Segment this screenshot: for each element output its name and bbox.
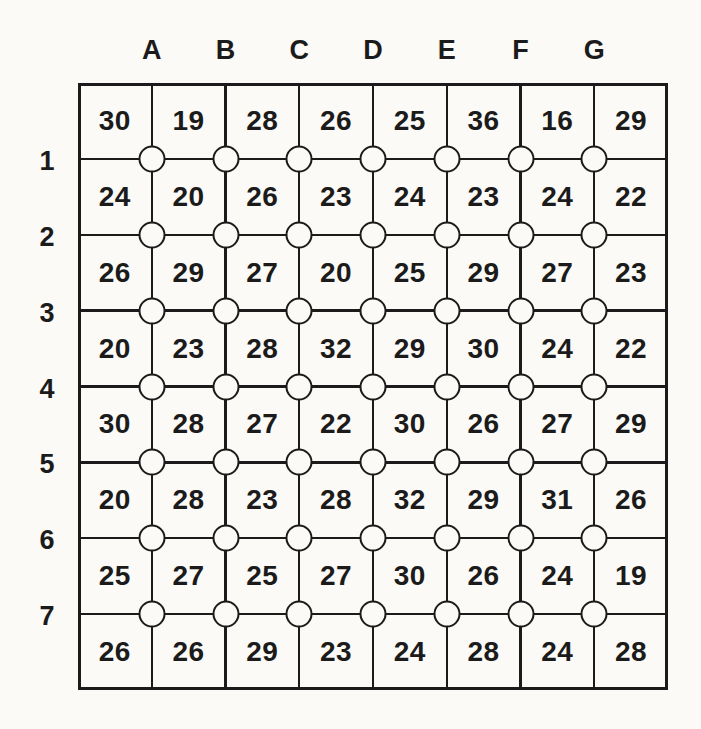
cell-value-r7-c4: 27 — [299, 538, 373, 614]
cell-value-r1-c1: 30 — [78, 83, 152, 159]
grid-node-circle-E1 — [433, 145, 460, 172]
cell-value-r1-c4: 26 — [299, 83, 373, 159]
grid-node-circle-G4 — [581, 373, 608, 400]
cell-value-r3-c6: 29 — [447, 235, 521, 311]
cell-value-r3-c5: 25 — [373, 235, 447, 311]
cell-value-r7-c6: 26 — [447, 538, 521, 614]
cell-value-r8-c8: 28 — [594, 614, 668, 690]
grid-node-circle-A2 — [138, 221, 165, 248]
grid-node-circle-D5 — [360, 449, 387, 476]
row-label-4: 4 — [30, 373, 64, 404]
cell-value-r2-c8: 22 — [594, 159, 668, 235]
cell-value-r7-c2: 27 — [152, 538, 226, 614]
cell-value-r6-c3: 23 — [226, 462, 300, 538]
cell-value-r8-c6: 28 — [447, 614, 521, 690]
column-label-C: C — [290, 35, 310, 65]
cell-value-r1-c7: 16 — [521, 83, 595, 159]
cell-value-r4-c7: 24 — [521, 311, 595, 387]
grid-node-circle-D6 — [360, 525, 387, 552]
cell-value-r4-c3: 28 — [226, 311, 300, 387]
cell-value-r7-c8: 19 — [594, 538, 668, 614]
cell-value-r2-c6: 23 — [447, 159, 521, 235]
column-label-F: F — [512, 35, 529, 65]
cell-value-r5-c8: 29 — [594, 387, 668, 463]
grid-node-circle-A3 — [138, 297, 165, 324]
scanned-grid-figure: ABCDEFG 1234567 301928262536162924202623… — [0, 0, 701, 729]
cell-value-r2-c2: 20 — [152, 159, 226, 235]
cell-value-r1-c8: 29 — [594, 83, 668, 159]
grid-node-circle-B5 — [212, 449, 239, 476]
cell-value-r7-c7: 24 — [521, 538, 595, 614]
cell-value-r5-c6: 26 — [447, 387, 521, 463]
grid-node-circle-F1 — [507, 145, 534, 172]
grid-node-circle-C7 — [286, 601, 313, 628]
cell-value-r5-c2: 28 — [152, 387, 226, 463]
grid-node-circle-A1 — [138, 145, 165, 172]
cell-value-r3-c3: 27 — [226, 235, 300, 311]
grid-node-circle-B3 — [212, 297, 239, 324]
grid-node-circle-F2 — [507, 221, 534, 248]
cell-value-r3-c2: 29 — [152, 235, 226, 311]
cell-value-r6-c1: 20 — [78, 462, 152, 538]
cell-value-r3-c8: 23 — [594, 235, 668, 311]
cell-value-r1-c5: 25 — [373, 83, 447, 159]
cell-value-r2-c3: 26 — [226, 159, 300, 235]
grid-node-circle-B6 — [212, 525, 239, 552]
cell-value-r1-c3: 28 — [226, 83, 300, 159]
row-label-1: 1 — [30, 145, 64, 176]
grid-node-circle-C5 — [286, 449, 313, 476]
grid-node-circle-A5 — [138, 449, 165, 476]
cell-value-r1-c6: 36 — [447, 83, 521, 159]
grid-node-circle-E4 — [433, 373, 460, 400]
cell-value-r2-c5: 24 — [373, 159, 447, 235]
cell-value-r7-c1: 25 — [78, 538, 152, 614]
grid-node-circle-F4 — [507, 373, 534, 400]
row-label-5: 5 — [30, 449, 64, 480]
grid-node-circle-B2 — [212, 221, 239, 248]
cell-value-r3-c1: 26 — [78, 235, 152, 311]
column-label-B: B — [216, 35, 236, 65]
row-label-2: 2 — [30, 221, 64, 252]
cell-value-r3-c4: 20 — [299, 235, 373, 311]
cell-value-r6-c5: 32 — [373, 462, 447, 538]
cell-value-r7-c3: 25 — [226, 538, 300, 614]
grid-node-circle-D2 — [360, 221, 387, 248]
cell-value-r3-c7: 27 — [521, 235, 595, 311]
row-label-3: 3 — [30, 297, 64, 328]
cell-value-r2-c1: 24 — [78, 159, 152, 235]
grid-node-circle-G1 — [581, 145, 608, 172]
grid-node-circle-D3 — [360, 297, 387, 324]
cell-value-r5-c7: 27 — [521, 387, 595, 463]
grid-node-circle-F3 — [507, 297, 534, 324]
grid-node-circle-A7 — [138, 601, 165, 628]
cell-value-r5-c4: 22 — [299, 387, 373, 463]
grid-node-circle-B4 — [212, 373, 239, 400]
cell-value-r4-c2: 23 — [152, 311, 226, 387]
cell-value-r6-c7: 31 — [521, 462, 595, 538]
cell-value-r6-c8: 26 — [594, 462, 668, 538]
grid-node-circle-B7 — [212, 601, 239, 628]
cell-value-r5-c3: 27 — [226, 387, 300, 463]
cell-value-r5-c5: 30 — [373, 387, 447, 463]
cell-value-r8-c2: 26 — [152, 614, 226, 690]
cell-value-r4-c5: 29 — [373, 311, 447, 387]
grid-node-circle-A4 — [138, 373, 165, 400]
column-label-G: G — [584, 35, 605, 65]
cell-value-r6-c2: 28 — [152, 462, 226, 538]
cell-value-r2-c4: 23 — [299, 159, 373, 235]
grid-node-circle-G7 — [581, 601, 608, 628]
cell-value-r6-c6: 29 — [447, 462, 521, 538]
grid-node-circle-E6 — [433, 525, 460, 552]
grid-node-circle-F6 — [507, 525, 534, 552]
grid-node-circle-E7 — [433, 601, 460, 628]
grid-node-circle-F5 — [507, 449, 534, 476]
cell-value-r8-c1: 26 — [78, 614, 152, 690]
cell-value-r5-c1: 30 — [78, 387, 152, 463]
field-plot-grid: 3019282625361629242026232423242226292720… — [78, 83, 668, 690]
grid-node-circle-C3 — [286, 297, 313, 324]
cell-value-r4-c8: 22 — [594, 311, 668, 387]
row-label-7: 7 — [30, 601, 64, 632]
cell-value-r7-c5: 30 — [373, 538, 447, 614]
grid-node-circle-C4 — [286, 373, 313, 400]
grid-node-circle-A6 — [138, 525, 165, 552]
